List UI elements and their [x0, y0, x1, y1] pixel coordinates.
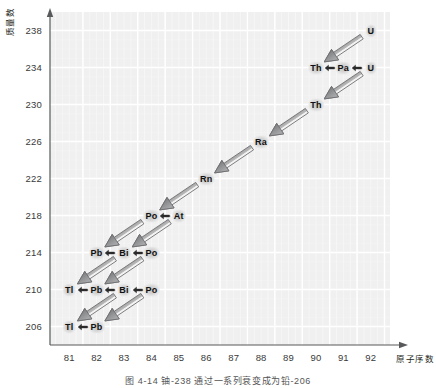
nuclide-rn-222: Rn: [198, 172, 215, 185]
x-tick-83: 83: [112, 352, 136, 363]
x-tick-90: 90: [304, 352, 328, 363]
nuclide-bi-214: Bi: [117, 246, 131, 259]
x-tick-84: 84: [139, 352, 163, 363]
x-tick-82: 82: [85, 352, 109, 363]
nuclide-pa-234: Pa: [336, 61, 352, 74]
x-tick-85: 85: [167, 352, 191, 363]
nuclide-po-210: Po: [143, 283, 159, 296]
y-tick-238: 238: [12, 25, 42, 36]
beta-arrow-icon: [324, 64, 335, 72]
x-tick-91: 91: [331, 352, 355, 363]
beta-arrow-icon: [352, 64, 363, 72]
nuclide-tl-210: Tl: [63, 283, 76, 296]
beta-arrow-icon: [105, 249, 116, 257]
nuclide-th-230: Th: [308, 98, 324, 111]
nuclide-pb-210: Pb: [89, 283, 105, 296]
nuclide-u-238: U: [365, 24, 376, 37]
nuclide-bi-210: Bi: [117, 283, 131, 296]
figure-caption: 图 4-14 铀-238 通过一系列衰变成为铅-206: [0, 374, 436, 387]
x-tick-89: 89: [277, 352, 301, 363]
beta-arrow-icon: [77, 286, 88, 294]
y-tick-226: 226: [12, 136, 42, 147]
nuclide-ra-226: Ra: [253, 135, 269, 148]
nuclide-th-234: Th: [308, 61, 324, 74]
y-tick-210: 210: [12, 284, 42, 295]
y-tick-206: 206: [12, 321, 42, 332]
y-tick-222: 222: [12, 173, 42, 184]
nuclide-po-218: Po: [143, 209, 159, 222]
y-tick-230: 230: [12, 99, 42, 110]
x-axis-title: 原子序数: [396, 352, 434, 364]
beta-arrow-icon: [160, 212, 171, 220]
beta-arrow-icon: [77, 323, 88, 331]
nuclide-pb-214: Pb: [89, 246, 105, 259]
nuclide-at-218: At: [172, 209, 186, 222]
y-tick-234: 234: [12, 62, 42, 73]
beta-arrow-icon: [105, 286, 116, 294]
y-tick-214: 214: [12, 247, 42, 258]
y-tick-218: 218: [12, 210, 42, 221]
nuclide-pb-206: Pb: [89, 320, 105, 333]
nuclide-tl-206: Tl: [63, 320, 76, 333]
x-tick-86: 86: [194, 352, 218, 363]
nuclide-u-234: U: [365, 61, 376, 74]
x-tick-81: 81: [57, 352, 81, 363]
nuclide-po-214: Po: [143, 246, 159, 259]
x-tick-87: 87: [222, 352, 246, 363]
y-axis-title: 质量数: [3, 0, 15, 44]
x-tick-92: 92: [359, 352, 383, 363]
figure-root: 238234230226222218214210206 818283848586…: [0, 0, 436, 388]
beta-arrow-icon: [132, 249, 143, 257]
beta-arrow-icon: [132, 286, 143, 294]
x-tick-88: 88: [249, 352, 273, 363]
